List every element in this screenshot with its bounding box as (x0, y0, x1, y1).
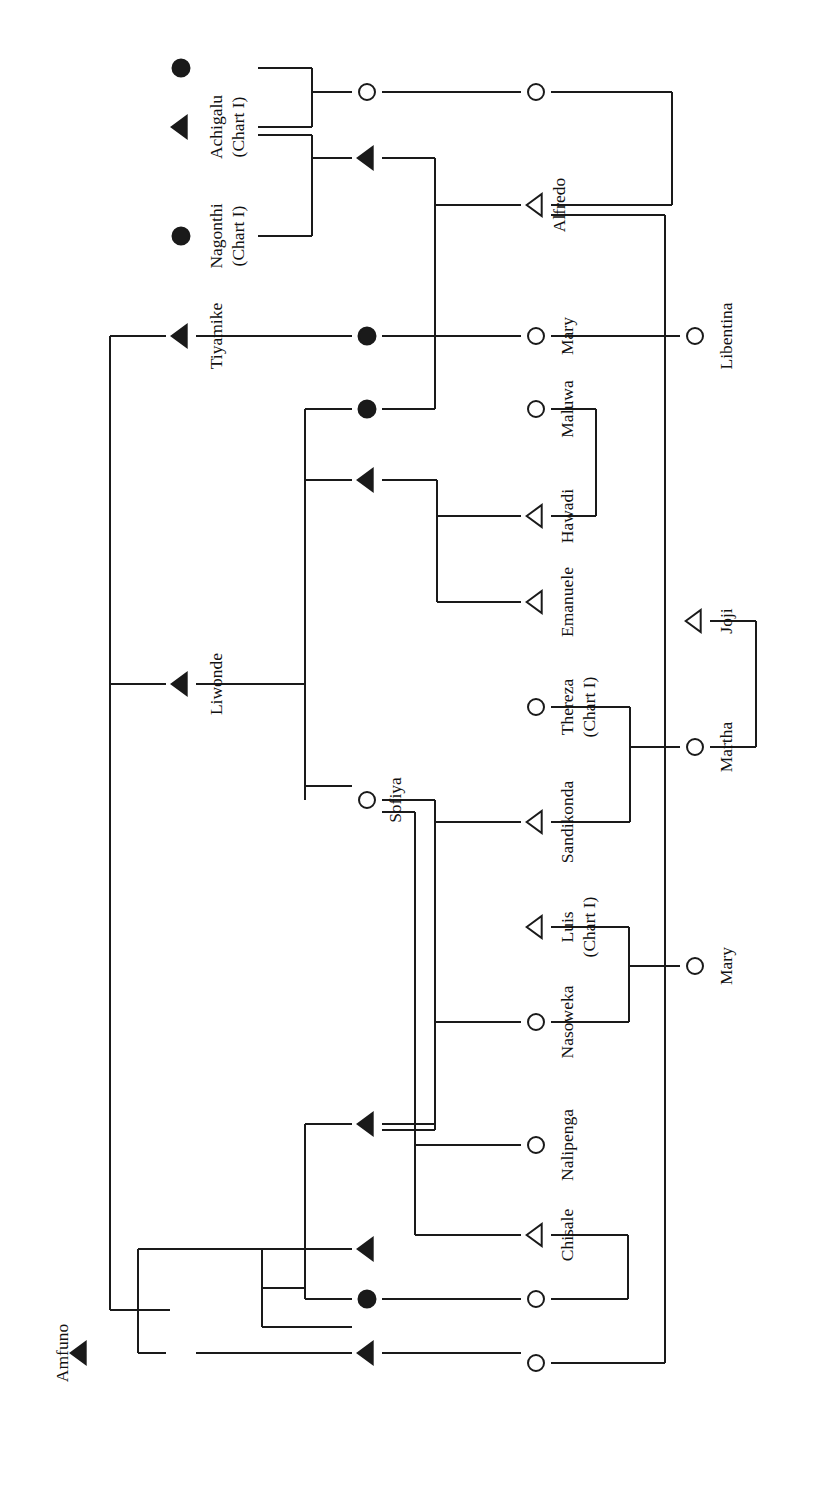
person-symbol-nagonthi[interactable] (173, 228, 190, 245)
label-chart-i: (Chart I) (228, 96, 248, 157)
filled-triangle-icon (172, 116, 187, 138)
filled-triangle-icon (358, 1238, 373, 1260)
filled-triangle-icon (358, 147, 373, 169)
label-chart-i: (Chart I) (228, 205, 248, 266)
filled-triangle-icon (358, 1113, 373, 1135)
person-symbol-liwonde[interactable] (172, 673, 187, 695)
open-circle-icon (528, 699, 544, 715)
label-maluwa: Maluwa (557, 380, 577, 438)
label-nagonthi: Nagonthi (206, 203, 226, 268)
person-symbol-chisale[interactable] (527, 1224, 542, 1246)
filled-triangle-icon (172, 673, 187, 695)
person-symbol-p7[interactable] (359, 84, 375, 100)
label-libentina: Libentina (716, 302, 736, 369)
person-symbol-p9[interactable] (359, 328, 376, 345)
person-symbol-p15[interactable] (359, 1291, 376, 1308)
filled-triangle-icon (172, 325, 187, 347)
label-sandikonda: Sandikonda (557, 780, 577, 863)
filled-circle-icon (173, 228, 190, 245)
open-circle-icon (528, 1137, 544, 1153)
filled-triangle-icon (358, 1342, 373, 1364)
label-achigalu: Achigalu (206, 95, 226, 159)
person-symbol-thereza[interactable] (528, 699, 544, 715)
person-symbol-p1[interactable] (173, 60, 190, 77)
person-symbols (71, 60, 703, 1372)
open-circle-icon (359, 84, 375, 100)
label-mary: Mary (557, 317, 577, 355)
open-circle-icon (359, 792, 375, 808)
label-luis: Luis (557, 911, 577, 942)
open-circle-icon (528, 1014, 544, 1030)
filled-circle-icon (359, 1291, 376, 1308)
open-triangle-icon (527, 591, 542, 613)
person-symbol-p30[interactable] (528, 1355, 544, 1371)
person-symbol-p17[interactable] (528, 84, 544, 100)
person-symbol-joji[interactable] (686, 610, 701, 632)
label-chart-i: (Chart I) (579, 896, 599, 957)
label-liwonde: Liwonde (206, 653, 226, 715)
person-symbol-martha[interactable] (687, 739, 703, 755)
label-emanuele: Emanuele (557, 567, 577, 637)
open-circle-icon (687, 958, 703, 974)
person-symbol-emanuele[interactable] (527, 591, 542, 613)
person-symbol-alfredo[interactable] (527, 194, 542, 216)
person-symbol-nalipenga[interactable] (528, 1137, 544, 1153)
person-symbol-libentina[interactable] (687, 328, 703, 344)
person-symbol-maluwa[interactable] (528, 401, 544, 417)
person-symbol-luis[interactable] (527, 916, 542, 938)
label-hawadi: Hawadi (557, 489, 577, 544)
open-triangle-icon (527, 1224, 542, 1246)
label-mary: Mary (716, 947, 736, 985)
open-triangle-icon (527, 811, 542, 833)
genealogy-chart-page: Achigalu(Chart I)Nagonthi(Chart I)Tiyami… (0, 0, 816, 1490)
person-symbol-mary[interactable] (687, 958, 703, 974)
person-symbol-mary[interactable] (528, 328, 544, 344)
person-symbol-tiyamike[interactable] (172, 325, 187, 347)
person-labels: Achigalu(Chart I)Nagonthi(Chart I)Tiyami… (52, 95, 736, 1382)
open-circle-icon (687, 739, 703, 755)
label-alfredo: Alfredo (549, 178, 569, 233)
open-triangle-icon (527, 194, 542, 216)
open-triangle-icon (527, 505, 542, 527)
label-thereza: Thereza (557, 679, 577, 736)
person-symbol-amfuno[interactable] (71, 1342, 86, 1364)
kinship-chart-svg: Achigalu(Chart I)Nagonthi(Chart I)Tiyami… (0, 0, 816, 1490)
label-joji: Joji (716, 608, 736, 633)
open-circle-icon (528, 1291, 544, 1307)
open-circle-icon (528, 1355, 544, 1371)
open-triangle-icon (527, 916, 542, 938)
open-circle-icon (528, 328, 544, 344)
label-chart-i: (Chart I) (579, 676, 599, 737)
person-symbol-hawadi[interactable] (527, 505, 542, 527)
person-symbol-p8[interactable] (358, 147, 373, 169)
person-symbol-p29[interactable] (528, 1291, 544, 1307)
label-sofiya: Sofiya (385, 777, 405, 823)
person-symbol-p13[interactable] (358, 1113, 373, 1135)
label-chisale: Chisale (557, 1209, 577, 1262)
person-symbol-p11[interactable] (358, 469, 373, 491)
filled-triangle-icon (71, 1342, 86, 1364)
filled-circle-icon (359, 328, 376, 345)
person-symbol-p14[interactable] (358, 1238, 373, 1260)
filled-circle-icon (173, 60, 190, 77)
open-circle-icon (528, 401, 544, 417)
label-martha: Martha (716, 722, 736, 773)
filled-triangle-icon (358, 469, 373, 491)
person-symbol-p10[interactable] (359, 401, 376, 418)
open-circle-icon (687, 328, 703, 344)
person-symbol-p16[interactable] (358, 1342, 373, 1364)
person-symbol-sandikonda[interactable] (527, 811, 542, 833)
filled-circle-icon (359, 401, 376, 418)
label-nalipenga: Nalipenga (557, 1109, 577, 1181)
open-circle-icon (528, 84, 544, 100)
open-triangle-icon (686, 610, 701, 632)
label-nasoweka: Nasoweka (557, 985, 577, 1058)
person-symbol-sofiya[interactable] (359, 792, 375, 808)
person-symbol-nasoweka[interactable] (528, 1014, 544, 1030)
label-tiyamike: Tiyamike (206, 303, 226, 370)
person-symbol-achigalu[interactable] (172, 116, 187, 138)
label-amfuno: Amfuno (52, 1324, 72, 1383)
